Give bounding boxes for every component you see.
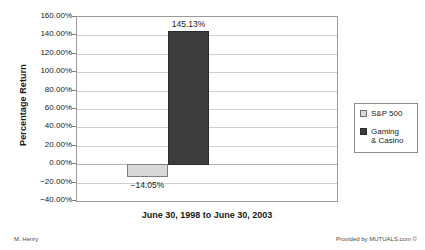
y-axis-tick-mark xyxy=(72,108,76,109)
y-axis-tick-labels: 160.00%140.00%120.00%100.00%80.00%60.00%… xyxy=(22,16,72,202)
y-axis-tick-mark xyxy=(72,182,76,183)
y-axis-tick-mark xyxy=(72,34,76,35)
percentage-return-bar-chart: Percentage Return 160.00%140.00%120.00%1… xyxy=(0,0,425,250)
bar-value-label-sp-500: −14.05% xyxy=(107,180,188,190)
y-axis-tick-mark xyxy=(72,71,76,72)
y-axis-tick-mark xyxy=(72,126,76,127)
bar-sp-500[interactable] xyxy=(127,164,168,177)
y-axis-tick-mark xyxy=(72,163,76,164)
footer-provider: Provided by MUTUALS.com © xyxy=(336,236,417,242)
y-axis-tick-mark xyxy=(72,53,76,54)
y-axis-tick-label: 80.00% xyxy=(22,86,72,94)
y-axis-tick-label: 40.00% xyxy=(22,122,72,130)
legend-label-gaming-casino: Gaming & Casino xyxy=(371,127,403,146)
chart-legend: S&P 500 Gaming & Casino xyxy=(354,103,418,153)
legend-swatch-icon-sp-500 xyxy=(360,110,367,117)
y-axis-tick-mark xyxy=(72,200,76,201)
legend-label-sp-500: S&P 500 xyxy=(371,109,402,119)
y-axis-tick-label: −20.00% xyxy=(22,178,72,186)
legend-swatch-icon-gaming-casino xyxy=(360,128,367,135)
plot-area: −14.05%145.13% xyxy=(76,16,338,202)
y-axis-tick-label: 0.00% xyxy=(22,159,72,167)
legend-item-gaming-casino[interactable]: Gaming & Casino xyxy=(360,127,413,146)
y-axis-tick-label: 100.00% xyxy=(22,67,72,75)
y-axis-tick-mark xyxy=(72,90,76,91)
y-axis-tick-label: 20.00% xyxy=(22,141,72,149)
bar-gaming-casino[interactable] xyxy=(168,31,209,165)
y-axis-tick-label: −40.00% xyxy=(22,196,72,204)
legend-item-sp-500[interactable]: S&P 500 xyxy=(360,109,413,119)
y-axis-tick-mark xyxy=(72,16,76,17)
x-axis-title: June 30, 1998 to June 30, 2003 xyxy=(76,210,338,220)
y-axis-tick-label: 160.00% xyxy=(22,12,72,20)
y-axis-tick-mark xyxy=(72,145,76,146)
footer-author: M. Henry xyxy=(14,236,38,242)
y-axis-tick-label: 120.00% xyxy=(22,49,72,57)
y-axis-tick-label: 140.00% xyxy=(22,30,72,38)
bar-value-label-gaming-casino: 145.13% xyxy=(148,19,229,29)
y-axis-tick-label: 60.00% xyxy=(22,104,72,112)
